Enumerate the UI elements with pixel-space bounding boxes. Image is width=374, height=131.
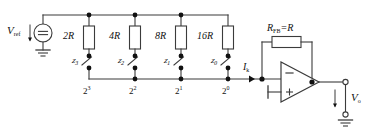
vo-arrow-head (333, 104, 337, 108)
label-weight-2-1: 21 (175, 85, 183, 96)
label-resistor-8R: 8R (155, 31, 166, 41)
switch-z2-contact-lower (133, 66, 138, 71)
resistor-2R-body (84, 26, 95, 49)
node-output-junction (309, 79, 314, 84)
label-output-vo: Vo (351, 92, 361, 104)
label-weight-2-3: 23 (83, 85, 91, 96)
node-bus-16R (226, 77, 231, 82)
node-summing-junction (259, 76, 264, 81)
node-rail-8R (179, 13, 184, 18)
switch-z0-contact-lower (226, 66, 231, 71)
switch-z3-contact-lower (87, 66, 92, 71)
resistor-4R-body (130, 26, 141, 49)
switch-z2-blade (128, 57, 138, 65)
vref-arrow-head (28, 38, 32, 42)
current-arrow-Ik (249, 76, 255, 83)
node-rail-2R (87, 13, 92, 18)
label-weight-2-2: 22 (129, 85, 137, 96)
output-terminal-positive (343, 79, 348, 84)
output-terminal-reference (343, 112, 348, 117)
resistor-16R-body (223, 26, 234, 49)
node-bus-4R (133, 77, 138, 82)
schematic-canvas (0, 0, 374, 131)
label-current-ik: Ik (243, 62, 249, 73)
switch-z1-contact-lower (179, 66, 184, 71)
switch-z3-blade (82, 57, 92, 65)
label-resistor-16R: 16R (197, 31, 213, 41)
resistor-RFB-body (272, 37, 301, 48)
label-resistor-4R: 4R (109, 31, 120, 41)
label-resistor-2R: 2R (63, 31, 74, 41)
resistor-8R-body (176, 26, 187, 49)
switch-z3-contact-upper (87, 54, 92, 59)
switch-z1-contact-upper (179, 54, 184, 59)
switch-z1-blade (174, 57, 184, 65)
label-feedback-resistor: RFB=R (267, 23, 293, 34)
node-rail-4R (133, 13, 138, 18)
label-weight-2-0: 20 (222, 85, 230, 96)
circuit-diagram: Vref 2R 4R 8R 16R z3 z2 z1 z0 23 22 21 2… (0, 0, 374, 131)
switch-z2-contact-upper (133, 54, 138, 59)
switch-z0-blade (221, 57, 231, 65)
switch-z0-contact-upper (226, 54, 231, 59)
label-vref: Vref (7, 25, 20, 37)
node-bus-8R (179, 77, 184, 82)
voltage-source-symbol (34, 24, 52, 42)
